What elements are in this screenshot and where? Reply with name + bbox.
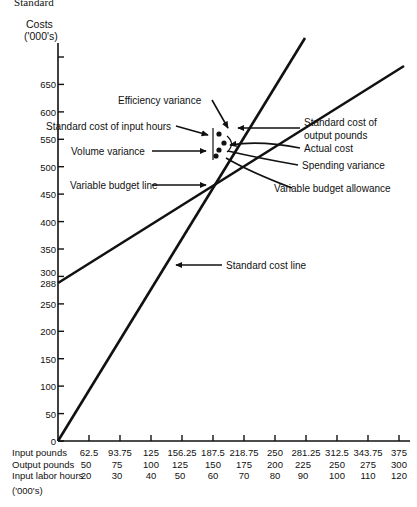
x-axis-ticks [89, 435, 399, 441]
point-standard-cost-output-pounds [213, 153, 218, 158]
cell-input-labor-hours-9: 110 [360, 470, 375, 482]
cell-input-pounds-4: 187.5 [201, 447, 225, 459]
y-tick-label-100: 100 [28, 381, 56, 392]
bottom-units-label: ('000's) [12, 485, 43, 497]
cell-input-labor-hours-8: 100 [329, 470, 345, 482]
chart-page: Standard Costs ('000's) [0, 0, 417, 507]
cell-output-pounds-0: 50 [81, 459, 92, 471]
y-tick-label-288: 288 [28, 278, 56, 289]
cell-input-labor-hours-3: 50 [175, 470, 186, 482]
cell-input-pounds-7: 281.25 [291, 447, 320, 459]
cell-input-pounds-6: 250 [267, 447, 283, 459]
annotation-standard-cost-of-input-hours: Standard cost of input hours [46, 121, 171, 132]
cell-output-pounds-7: 225 [295, 459, 311, 471]
cell-output-pounds-4: 150 [205, 459, 221, 471]
y-tick-label-300: 300 [28, 267, 56, 278]
annotation-volume-variance: Volume variance [71, 146, 145, 157]
y-tick-label-500: 500 [28, 161, 56, 172]
point-variable-budget-allowance [216, 147, 221, 152]
annotation-efficiency-variance: Efficiency variance [118, 95, 201, 106]
cell-output-pounds-5: 175 [236, 459, 252, 471]
annotation-standard-cost-of-output-pounds-line2: output pounds [304, 130, 367, 141]
cell-input-pounds-0: 62.5 [80, 447, 99, 459]
cell-input-pounds-5: 218.75 [229, 447, 258, 459]
bottom-axis-table: Input pounds 62.5 93.75 125 156.25 187.5… [0, 447, 417, 482]
y-tick-label-50: 50 [28, 408, 56, 419]
y-tick-label-150: 150 [28, 353, 56, 364]
y-tick-label-450: 450 [28, 189, 56, 200]
cell-input-labor-hours-6: 80 [270, 470, 281, 482]
intersection-points [213, 131, 226, 158]
cell-input-labor-hours-1: 30 [112, 470, 123, 482]
cell-input-pounds-8: 312.5 [325, 447, 349, 459]
cell-output-pounds-10: 300 [391, 459, 407, 471]
cell-output-pounds-9: 275 [360, 459, 376, 471]
y-tick-label-250: 250 [28, 298, 56, 309]
cell-input-pounds-10: 375 [391, 447, 407, 459]
cell-output-pounds-2: 100 [143, 459, 159, 471]
chart-canvas [0, 0, 417, 507]
cell-input-pounds-3: 156.25 [167, 447, 196, 459]
row-label-input-labor-hours: Input labor hours [12, 470, 83, 482]
y-tick-label-600: 600 [28, 106, 56, 117]
cell-output-pounds-8: 250 [329, 459, 345, 471]
y-tick-label-350: 350 [28, 244, 56, 255]
row-label-input-pounds: Input pounds [12, 447, 67, 459]
cell-input-labor-hours-4: 60 [208, 470, 219, 482]
cell-input-pounds-1: 93.75 [108, 447, 132, 459]
table-row-output-pounds: Output pounds 50 75 100 125 150 175 200 … [0, 459, 417, 471]
cell-input-labor-hours-0: 20 [81, 470, 92, 482]
variable-budget-line [58, 66, 404, 283]
annotation-standard-cost-line: Standard cost line [226, 260, 306, 271]
y-tick-label-200: 200 [28, 326, 56, 337]
annotation-actual-cost: Actual cost [304, 143, 353, 154]
annotation-spending-variance: Spending variance [302, 160, 385, 171]
y-tick-label-0: 0 [28, 436, 56, 447]
annotation-variable-budget-allowance: Variable budget allowance [274, 183, 391, 194]
cell-output-pounds-6: 200 [267, 459, 283, 471]
point-standard-cost-input-hours [216, 131, 221, 136]
annotation-variable-budget-line: Variable budget line [70, 180, 158, 191]
y-axis-ticks [58, 57, 64, 441]
y-tick-label-400: 400 [28, 216, 56, 227]
y-tick-label-650: 650 [28, 79, 56, 90]
table-row-input-labor-hours: Input labor hours 20 30 40 50 60 70 80 9… [0, 470, 417, 482]
cell-input-pounds-9: 343.75 [353, 447, 382, 459]
point-actual-cost [221, 140, 226, 145]
cell-input-pounds-2: 125 [143, 447, 159, 459]
cell-input-labor-hours-5: 70 [239, 470, 250, 482]
cell-input-labor-hours-10: 120 [391, 470, 407, 482]
cell-output-pounds-1: 75 [112, 459, 123, 471]
row-label-output-pounds: Output pounds [12, 459, 74, 471]
table-row-input-pounds: Input pounds 62.5 93.75 125 156.25 187.5… [0, 447, 417, 459]
cell-input-labor-hours-2: 40 [146, 470, 157, 482]
cell-input-labor-hours-7: 90 [298, 470, 309, 482]
annotation-standard-cost-of-output-pounds-line1: Standard cost of [304, 117, 377, 128]
cell-output-pounds-3: 125 [172, 459, 188, 471]
y-tick-label-550: 550 [28, 134, 56, 145]
